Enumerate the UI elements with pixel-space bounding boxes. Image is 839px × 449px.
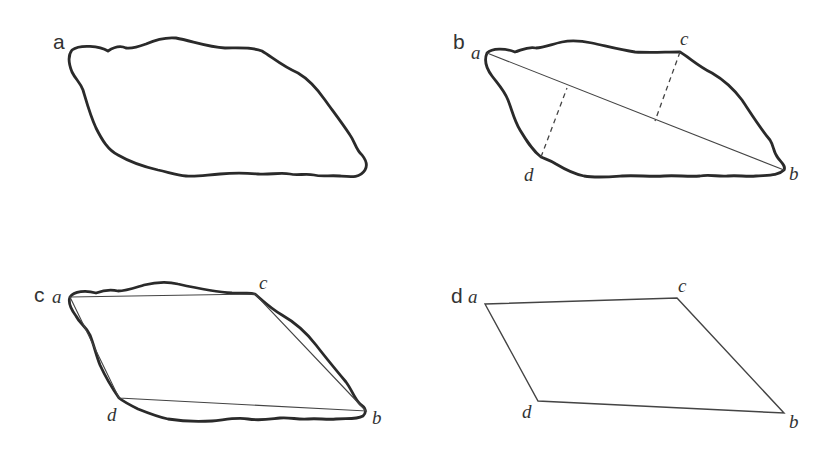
vertex-label-a: a bbox=[471, 42, 481, 63]
vertex-label-b: b bbox=[372, 407, 382, 428]
panel-d: d a c b d bbox=[451, 275, 799, 432]
vertex-label-b: b bbox=[789, 411, 799, 432]
irregular-outline-a bbox=[69, 38, 366, 177]
vertex-label-d: d bbox=[524, 164, 534, 185]
vertex-label-c: c bbox=[678, 275, 687, 296]
panel-label-a: a bbox=[53, 30, 65, 53]
perpendicular-c bbox=[655, 52, 680, 121]
parallelogram bbox=[485, 298, 784, 413]
panel-label-d: d bbox=[451, 284, 463, 307]
vertex-label-b: b bbox=[789, 163, 799, 184]
panel-a: a bbox=[53, 30, 366, 177]
vertex-label-c: c bbox=[259, 272, 268, 293]
vertex-label-d: d bbox=[107, 404, 117, 425]
figure-canvas: a b a c b d c a c b d d a c b d bbox=[0, 0, 839, 449]
axis-line-ab bbox=[487, 53, 784, 170]
perpendicular-d bbox=[541, 88, 567, 157]
vertex-label-a: a bbox=[52, 286, 62, 307]
vertex-label-c: c bbox=[680, 28, 689, 49]
vertex-label-a: a bbox=[468, 286, 478, 307]
irregular-outline-c bbox=[69, 282, 365, 421]
panel-label-b: b bbox=[453, 30, 465, 53]
panel-b: b a c b d bbox=[453, 28, 799, 185]
panel-c: c a c b d bbox=[34, 272, 382, 428]
vertex-label-d: d bbox=[522, 401, 532, 422]
panel-label-c: c bbox=[34, 283, 45, 306]
irregular-outline-b bbox=[486, 41, 785, 177]
